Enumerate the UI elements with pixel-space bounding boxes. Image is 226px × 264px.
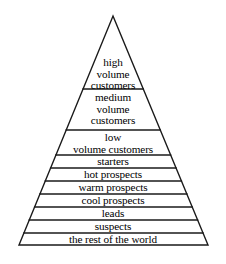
pyramid-band-label-line: cool prospects [0,195,226,207]
pyramid-band-hot-prospects: hot prospects [0,169,226,181]
pyramid-band-label-line: medium [0,92,226,104]
pyramid-band-the-rest-of-the-world: the rest of the world [0,234,226,246]
pyramid-band-label-line: warm prospects [0,182,226,194]
pyramid-band-label-line: starters [0,156,226,168]
pyramid-band-label-line: low [0,132,226,144]
pyramid-band-label-line: hot prospects [0,169,226,181]
pyramid-band-label-line: customers [0,115,226,127]
pyramid-band-label-line: leads [0,208,226,220]
pyramid-band-leads: leads [0,208,226,220]
pyramid-band-label-line: suspects [0,221,226,233]
pyramid-band-suspects: suspects [0,221,226,233]
pyramid-band-label-line: high [0,57,226,69]
pyramid-band-label-line: the rest of the world [0,234,226,246]
pyramid-band-cool-prospects: cool prospects [0,195,226,207]
pyramid-band-warm-prospects: warm prospects [0,182,226,194]
pyramid-band-label-line: volume customers [0,144,226,156]
pyramid-band-starters: starters [0,156,226,168]
pyramid-band-high-volume-customers: highvolumecustomers [0,57,226,92]
customer-loyalty-pyramid-diagram: highvolumecustomersmediumvolumecustomers… [0,0,226,264]
pyramid-band-medium-volume-customers: mediumvolumecustomers [0,92,226,127]
pyramid-band-low-volume-customers: lowvolume customers [0,132,226,155]
